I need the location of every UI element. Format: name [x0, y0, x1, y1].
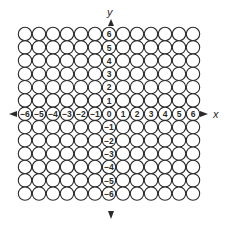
grid-circle: [74, 160, 87, 173]
grid-circle: [60, 160, 73, 173]
grid-circle: [172, 94, 185, 107]
grid-circle: [172, 147, 185, 160]
grid-circle: [144, 147, 157, 160]
grid-circle: [46, 41, 59, 54]
grid-circle: [18, 187, 31, 200]
y-tick-label: 2: [107, 82, 112, 92]
grid-circle: [46, 147, 59, 160]
grid-circle: [60, 134, 73, 147]
grid-circle: [116, 160, 129, 173]
grid-circle: [172, 120, 185, 133]
grid-circle: [158, 174, 171, 187]
grid-circle: [18, 174, 31, 187]
grid-circle: [74, 81, 87, 94]
grid-circle: [144, 187, 157, 200]
grid-circle: [88, 160, 101, 173]
grid-circle: [88, 54, 101, 67]
grid-circle: [18, 41, 31, 54]
grid-circle: [144, 54, 157, 67]
grid-circle: [116, 41, 129, 54]
grid-circle: [130, 134, 143, 147]
grid-circle: [46, 54, 59, 67]
grid-circle: [88, 27, 101, 40]
grid-circle: [144, 94, 157, 107]
grid-circle: [144, 27, 157, 40]
grid-circle: [172, 187, 185, 200]
x-tick-label: 3: [149, 109, 154, 119]
grid-circle: [130, 160, 143, 173]
grid-circle: [158, 41, 171, 54]
grid-circle: [172, 134, 185, 147]
x-tick-label: −3: [62, 109, 72, 119]
origin-label: 0: [107, 109, 112, 119]
grid-circle: [186, 94, 199, 107]
grid-circle: [88, 147, 101, 160]
grid-circle: [46, 160, 59, 173]
grid-circle: [158, 120, 171, 133]
grid-circle: [130, 187, 143, 200]
grid-circle: [130, 41, 143, 54]
grid-circle: [18, 120, 31, 133]
grid-circle: [88, 94, 101, 107]
grid-circle: [74, 54, 87, 67]
grid-circle: [88, 134, 101, 147]
grid-circle: [116, 187, 129, 200]
grid-circle: [116, 27, 129, 40]
grid-circle: [46, 81, 59, 94]
grid-circle: [32, 27, 45, 40]
grid-circle: [60, 147, 73, 160]
grid-circle: [186, 120, 199, 133]
y-tick-label: 6: [107, 29, 112, 39]
grid-circle: [186, 160, 199, 173]
grid-circle: [144, 160, 157, 173]
grid-circle: [60, 41, 73, 54]
grid-circle: [74, 147, 87, 160]
grid-circle: [32, 187, 45, 200]
x-tick-label: 4: [163, 109, 168, 119]
grid-circle: [18, 147, 31, 160]
grid-circle: [144, 81, 157, 94]
grid-circle: [172, 81, 185, 94]
grid-circle: [172, 160, 185, 173]
grid-circle: [144, 174, 157, 187]
grid-circle: [186, 147, 199, 160]
grid-circle: [116, 94, 129, 107]
grid-circle: [130, 67, 143, 80]
grid-circle: [172, 174, 185, 187]
grid-circle: [130, 120, 143, 133]
grid-circle: [130, 54, 143, 67]
grid-circle: [144, 134, 157, 147]
grid-circle: [158, 67, 171, 80]
grid-circle: [18, 54, 31, 67]
grid-circle: [88, 120, 101, 133]
x-axis-right-arrow-icon: [200, 111, 208, 117]
grid-circle: [46, 94, 59, 107]
grid-circle: [158, 134, 171, 147]
grid-circle: [88, 41, 101, 54]
grid-circle: [130, 174, 143, 187]
grid-circle: [74, 174, 87, 187]
grid-circle: [88, 174, 101, 187]
grid-circle: [60, 81, 73, 94]
grid-circle: [186, 174, 199, 187]
grid-circle: [186, 54, 199, 67]
grid-circle: [116, 81, 129, 94]
grid-circle: [32, 81, 45, 94]
coordinate-grid-diagram: 654321−6−5−4−3−2−10123456−1−2−3−4−5−6 x …: [0, 0, 228, 226]
y-axis-label: y: [106, 6, 114, 18]
x-tick-label: −5: [34, 109, 44, 119]
grid-circle: [158, 27, 171, 40]
x-axis-label: x: [212, 108, 219, 120]
grid-circle: [172, 67, 185, 80]
grid-circle: [158, 160, 171, 173]
grid-circle: [46, 174, 59, 187]
grid-circle: [18, 134, 31, 147]
grid-circle: [130, 27, 143, 40]
y-axis-down-arrow-icon: [108, 211, 114, 219]
grid-circle: [60, 67, 73, 80]
grid-circle: [18, 81, 31, 94]
grid-circle: [116, 120, 129, 133]
grid-circle: [186, 67, 199, 80]
grid-circle: [186, 134, 199, 147]
grid-circle: [32, 120, 45, 133]
